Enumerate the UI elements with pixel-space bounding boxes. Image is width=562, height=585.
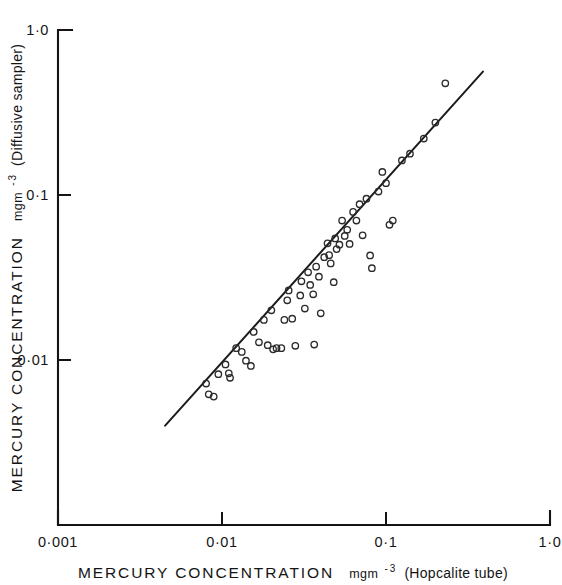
x-axis-line [58, 511, 550, 525]
scatter-point [310, 291, 316, 297]
y-axis-title: MERCURY CONCENTRATION mgm -3 (Diffusive … [2, 44, 25, 493]
scatter-point [289, 315, 295, 321]
x-axis-ticks [222, 512, 386, 525]
x-axis-tick-label: 1·0 [539, 534, 562, 550]
x-axis-tick-label: 0·001 [38, 534, 78, 550]
scatter-point [298, 278, 304, 284]
scatter-point [302, 305, 308, 311]
scatter-point [307, 282, 313, 288]
regression-line-segment [165, 72, 483, 426]
scatter-point [350, 209, 356, 215]
scatter-point [256, 339, 262, 345]
scatter-point [311, 341, 317, 347]
scatter-point [292, 343, 298, 349]
scatter-point [327, 260, 333, 266]
scatter-point [261, 317, 267, 323]
scatter-point [367, 252, 373, 258]
x-axis-tick-labels: 0·0010·010·11·0 [38, 534, 561, 550]
scatter-point [222, 361, 228, 367]
scatter-point [442, 80, 448, 86]
scatter-point [316, 273, 322, 279]
scatter-point [313, 263, 319, 269]
scatter-point [369, 265, 375, 271]
x-axis-tick-label: 0·1 [375, 534, 398, 550]
x-axis-title: MERCURY CONCENTRATION mgm -3 (Hopcalite … [78, 558, 508, 581]
regression-line [165, 72, 483, 426]
scatter-point [344, 227, 350, 233]
scatter-point [215, 371, 221, 377]
x-axis-tick-label: 0·01 [206, 534, 237, 550]
scatter-point [243, 358, 249, 364]
scatter-point [339, 217, 345, 223]
scatter-point [331, 279, 337, 285]
scatter-point [239, 349, 245, 355]
scatter-point [379, 169, 385, 175]
axes-group [58, 30, 550, 525]
svg-text:MERCURY CONCENTRATION: MERCURY CONCENTRATION mgm -3 (Hopcalite … [78, 558, 508, 581]
scatter-point [250, 329, 256, 335]
scatter-point [284, 297, 290, 303]
scatter-point [356, 201, 362, 207]
x-axis-title-parenthetical: (Hopcalite tube) [404, 565, 508, 581]
scatter-point [297, 292, 303, 298]
scatter-point [353, 217, 359, 223]
y-axis-title-parenthetical: (Diffusive sampler) [9, 44, 25, 166]
scatter-point [281, 317, 287, 323]
y-axis-title-unit: mgm [11, 192, 25, 221]
scatter-point [305, 269, 311, 275]
y-axis-ticks [58, 195, 71, 360]
y-axis-tick-label: 0·1 [26, 187, 49, 203]
y-axis-line [58, 30, 72, 525]
y-axis-title-main: MERCURY CONCENTRATION [8, 236, 25, 492]
svg-text:MERCURY CONCENTRATION m: MERCURY CONCENTRATION mgm -3 (Diffusive … [2, 44, 25, 493]
scatter-point [248, 363, 254, 369]
scatter-plot-figure: 0·0010·010·11·0 0·010·11·0 MERCURY CONCE… [0, 0, 562, 585]
x-axis-title-exponent: -3 [384, 563, 397, 574]
y-axis-title-exponent: -3 [7, 173, 18, 186]
x-axis-title-main: MERCURY CONCENTRATION [78, 564, 334, 581]
scatter-point [346, 241, 352, 247]
scatter-points-group [203, 80, 449, 400]
x-axis-title-unit: mgm [349, 567, 378, 581]
scatter-point [359, 232, 365, 238]
y-axis-tick-label: 1·0 [26, 22, 49, 38]
scatter-point [318, 310, 324, 316]
